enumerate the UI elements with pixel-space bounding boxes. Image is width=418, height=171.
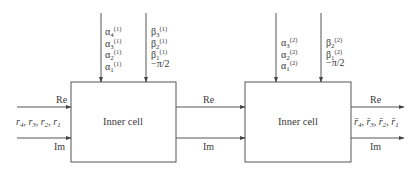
between-im-label: Im [203,141,214,152]
cell1-alpha-stack: α4(1) α3(1) α2(1) α1(1) [105,23,121,69]
cell1-beta-stack: β3(1) β2(1) β1(1) −π/2 [151,23,169,69]
inner-cell-2-label: Inner cell [278,116,318,127]
cell1-beta-3: β3(1) [151,23,169,35]
input-signals: r4, r3, r2, r1 [16,116,61,131]
output-im-label: Im [370,141,381,152]
between-re-label: Re [203,94,214,105]
output-signals: r̄4, r̄3, r̄2, r̄1 [354,116,399,131]
cell1-alpha-1: α1(1) [105,58,121,70]
cell2-beta-stack: β2(2) β1(2) −π/2 [326,34,344,69]
cell2-beta-neg-pi-half: −π/2 [326,57,344,69]
cell2-beta-2: β2(2) [326,34,344,46]
inner-cell-1-label: Inner cell [103,116,143,127]
cell1-alpha-4: α4(1) [105,23,121,35]
cell1-alpha-2: α2(1) [105,46,121,58]
output-re-label: Re [370,94,381,105]
input-im-label: Im [54,141,65,152]
cell1-beta-1: β1(1) [151,46,169,58]
cell1-alpha-3: α3(1) [105,35,121,47]
cell1-beta-2: β2(1) [151,35,169,47]
cell2-beta-1: β1(2) [326,46,344,58]
cell2-alpha-stack: α3(2) α2(2) α1(2) [281,34,297,69]
cell2-alpha-3: α3(2) [281,34,297,46]
cell1-beta-neg-pi-half: −π/2 [151,58,169,70]
cell2-alpha-1: α1(2) [281,57,297,69]
cell2-alpha-2: α2(2) [281,46,297,58]
input-re-label: Re [56,94,67,105]
